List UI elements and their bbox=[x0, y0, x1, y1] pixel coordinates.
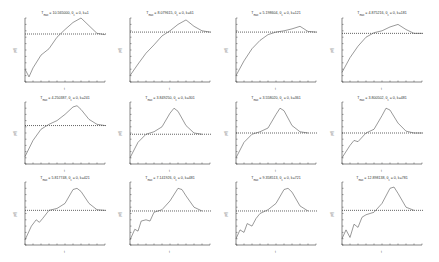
data-curve bbox=[342, 187, 414, 239]
subplot-canvas bbox=[0, 0, 439, 262]
axes bbox=[342, 182, 422, 245]
